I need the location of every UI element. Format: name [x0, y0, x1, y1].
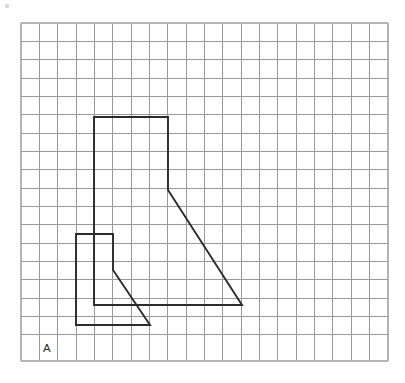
figure-background [0, 0, 405, 383]
figure-canvas: A [0, 0, 405, 383]
figure-label-a: A [43, 342, 51, 354]
scan-speck [5, 4, 9, 8]
grid-figure-svg: A [0, 0, 405, 383]
